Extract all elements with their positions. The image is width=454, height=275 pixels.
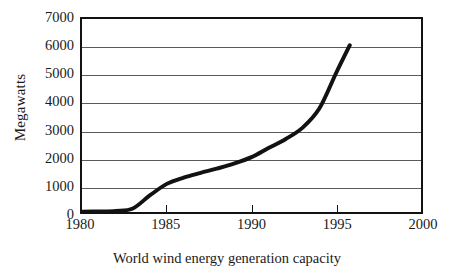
y-axis-tick-label: 6000	[45, 37, 74, 54]
y-axis-tick-label: 5000	[45, 65, 74, 82]
chart-caption: World wind energy generation capacity	[0, 250, 454, 267]
y-axis-tick-label: 7000	[45, 9, 74, 26]
chart-figure: Megawatts 01000200030004000500060007000 …	[0, 0, 454, 275]
x-axis-tick-mark	[166, 205, 167, 214]
y-axis-tick-label: 2000	[45, 149, 74, 166]
y-axis-title-text: Megawatts	[13, 74, 30, 142]
x-axis-tick-labels: 19801985199019952000	[0, 216, 454, 238]
x-axis-tick-label: 2000	[409, 216, 438, 233]
x-axis-tick-mark	[252, 205, 253, 214]
x-axis-ticks	[80, 17, 423, 214]
x-axis-tick-label: 1980	[66, 216, 95, 233]
y-axis-tick-label: 4000	[45, 93, 74, 110]
x-axis-tick-mark	[337, 205, 338, 214]
x-axis-tick-label: 1990	[237, 216, 266, 233]
x-axis-tick-label: 1985	[151, 216, 180, 233]
y-axis-tick-label: 1000	[45, 177, 74, 194]
x-axis-tick-label: 1995	[323, 216, 352, 233]
y-axis-tick-label: 3000	[45, 121, 74, 138]
